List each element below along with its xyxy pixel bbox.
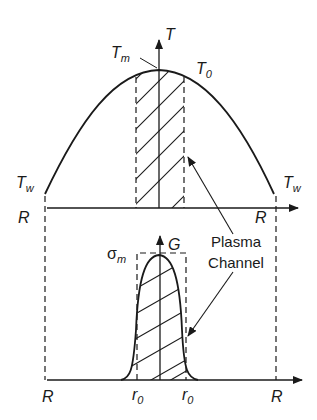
r0-right-label: r0 <box>182 386 194 406</box>
conductivity-hatch <box>130 227 200 392</box>
sigma-m-label: σm <box>107 245 126 265</box>
t0-label: T0 <box>196 60 213 80</box>
tw-right-label: Tw <box>283 174 302 194</box>
r0-left-label: r0 <box>132 386 144 406</box>
t-axis-label: T <box>165 26 176 43</box>
r-right-bottom-label: R <box>271 388 283 405</box>
tm-leader-line <box>140 58 157 68</box>
annotation-line-1: Plasma <box>211 233 262 250</box>
plasma-channel-annotation: Plasma Channel <box>188 157 264 336</box>
tm-label: Tm <box>111 44 130 64</box>
g-axis-label: G <box>168 236 180 253</box>
annotation-arrow-top <box>188 157 233 234</box>
tw-left-label: Tw <box>16 174 35 194</box>
r-left-bottom-label: R <box>42 388 54 405</box>
temperature-plot: T Tm T0 Tw Tw <box>16 15 302 220</box>
annotation-arrow-bottom <box>188 272 233 336</box>
r-left-top-label: R <box>18 209 30 226</box>
annotation-line-2: Channel <box>208 254 264 271</box>
r-right-top-label: R <box>255 209 267 226</box>
temperature-hatch <box>120 15 200 220</box>
plasma-channel-diagram: T Tm T0 Tw Tw R R G σm R R <box>0 0 317 420</box>
